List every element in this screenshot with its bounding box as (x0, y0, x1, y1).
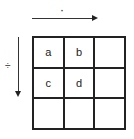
grid-cell-r3c1 (33, 98, 64, 129)
grid-cell-r3c3 (94, 98, 125, 129)
grid-cell-r1c1: a (33, 37, 64, 68)
grid-cell-r2c2: d (64, 68, 95, 99)
grid-cell-r1c3 (94, 37, 125, 68)
grid-cell-r1c2: b (64, 37, 95, 68)
multiplication-dot-label: · (60, 4, 64, 16)
grid-cell-r2c3 (94, 68, 125, 99)
grid-cell-r2c1: c (33, 68, 64, 99)
horizontal-arrow (32, 18, 94, 19)
grid-3x3: a b c d (32, 36, 126, 130)
vertical-arrow (18, 37, 19, 92)
division-sign-label: ÷ (5, 61, 11, 71)
grid-cell-r3c2 (64, 98, 95, 129)
